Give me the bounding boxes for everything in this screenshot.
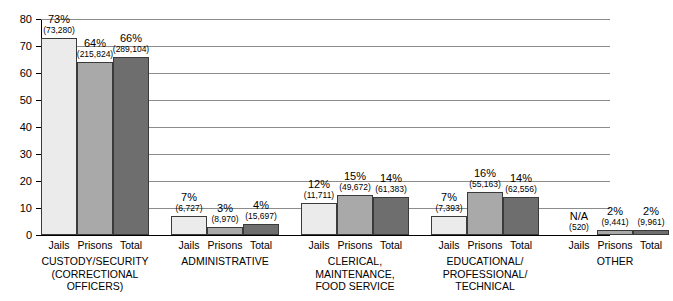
category-label-line: TECHNICAL xyxy=(407,280,563,293)
y-tick-label-20: 20 xyxy=(4,176,32,187)
category-label-line: PROFESSIONAL/ xyxy=(407,268,563,281)
bar-value-label: 2%(9,961) xyxy=(623,205,673,227)
bar xyxy=(301,203,337,235)
bar-count-label: (61,383) xyxy=(363,184,419,194)
bar xyxy=(243,224,279,235)
bar xyxy=(77,62,113,235)
series-label-total: Total xyxy=(237,239,285,251)
bar-percent-label: 73% xyxy=(31,13,87,25)
gridline-80 xyxy=(41,19,610,20)
bar-count-label: (73,280) xyxy=(31,25,87,35)
bar xyxy=(207,227,243,235)
bar-percent-label: 14% xyxy=(493,172,549,184)
bar-percent-label: 66% xyxy=(103,32,159,44)
y-tick-label-30: 30 xyxy=(4,149,32,160)
bar xyxy=(373,197,409,235)
category-label-line: (CORRECTIONAL xyxy=(17,268,173,281)
bar xyxy=(503,197,539,235)
bar-percent-label: 14% xyxy=(363,172,419,184)
category-label: OTHER xyxy=(537,255,673,268)
axis-baseline xyxy=(41,235,610,236)
y-tick-label-70: 70 xyxy=(4,41,32,52)
bar xyxy=(431,216,467,235)
series-label-total: Total xyxy=(497,239,545,251)
category-label-line: OFFICERS) xyxy=(17,280,173,293)
plot-area: 73%(73,280)64%(215,824)66%(289,104)7%(6,… xyxy=(41,19,610,235)
bar-count-label: (9,961) xyxy=(623,217,673,227)
bar-value-label: 66%(289,104) xyxy=(103,32,159,54)
bar-value-label: 14%(61,383) xyxy=(363,172,419,194)
y-tick-label-10: 10 xyxy=(4,203,32,214)
bar xyxy=(467,192,503,235)
series-label-total: Total xyxy=(367,239,415,251)
y-tick-label-40: 40 xyxy=(4,122,32,133)
bar xyxy=(597,230,633,235)
bar xyxy=(41,38,77,235)
bar-percent-label: 4% xyxy=(233,199,289,211)
bar-value-label: 4%(15,697) xyxy=(233,199,289,221)
bar-value-label: 14%(62,556) xyxy=(493,172,549,194)
bar xyxy=(113,57,149,235)
bar-percent-label: 2% xyxy=(623,205,673,217)
bar xyxy=(633,230,669,235)
bar-count-label: (15,697) xyxy=(233,211,289,221)
y-tick-label-60: 60 xyxy=(4,68,32,79)
y-tick-label-0: 0 xyxy=(4,230,32,241)
bar-count-label: (289,104) xyxy=(103,44,159,54)
y-tick-label-80: 80 xyxy=(4,14,32,25)
series-label-total: Total xyxy=(107,239,155,251)
bar xyxy=(337,195,373,236)
series-label-total: Total xyxy=(627,239,673,251)
category-label-line: OTHER xyxy=(537,255,673,268)
bar-value-label: 73%(73,280) xyxy=(31,13,87,35)
y-tick-label-50: 50 xyxy=(4,95,32,106)
bar-count-label: (62,556) xyxy=(493,184,549,194)
